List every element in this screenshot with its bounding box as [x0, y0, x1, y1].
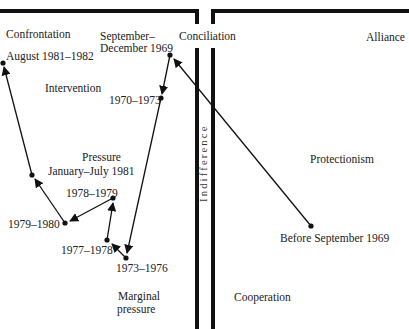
label-1977-1978: 1977–1978 — [61, 244, 113, 257]
region-pressure: Pressure — [82, 151, 121, 164]
region-indifference: Indifference — [198, 124, 209, 202]
point-1979-1980 — [62, 220, 67, 225]
label-1970-1973: 1970–1973 — [109, 94, 161, 107]
point-1977-1978 — [104, 237, 109, 242]
label-aug-1981-1982: August 1981–1982 — [6, 50, 94, 63]
region-marginal-pressure-line1: Marginal — [118, 290, 160, 303]
region-alliance: Alliance — [366, 31, 405, 44]
label-sep-dec-1969-line2: December 1969 — [100, 42, 173, 55]
label-1978-1979: 1978–1979 — [66, 187, 118, 200]
label-before-sep-1969: Before September 1969 — [280, 232, 389, 245]
region-intervention: Intervention — [45, 82, 101, 95]
region-marginal-pressure-line2: pressure — [117, 303, 155, 316]
relationship-trajectory-diagram: Confrontation Conciliation Alliance Inte… — [0, 0, 409, 329]
label-1973-1976: 1973–1976 — [116, 262, 168, 275]
label-jan-jul-1981: January–July 1981 — [48, 165, 135, 178]
region-conciliation: Conciliation — [179, 30, 236, 43]
point-jan-jul-1981 — [29, 172, 34, 177]
point-aug-1981-1982 — [0, 60, 5, 65]
label-1979-1980: 1979–1980 — [8, 218, 60, 231]
region-protectionism: Protectionism — [310, 153, 374, 166]
point-1973-1976 — [123, 255, 128, 260]
region-confrontation: Confrontation — [6, 28, 71, 41]
region-cooperation: Cooperation — [234, 291, 291, 304]
point-before-sep-1969 — [308, 223, 313, 228]
